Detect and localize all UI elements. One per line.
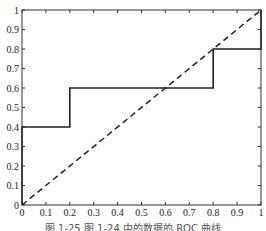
y-tick-label: 0.6 [7, 83, 20, 94]
x-tick-label: 0 [20, 207, 25, 218]
y-tick-label: 0 [14, 200, 19, 211]
y-tick-label: 0.1 [7, 180, 20, 191]
x-tick-label: 0.9 [231, 207, 244, 218]
x-tick-label: 0.3 [87, 207, 100, 218]
x-tick-label: 0.8 [207, 207, 220, 218]
roc-chart: 00.10.20.30.40.50.60.70.80.9100.10.20.30… [0, 0, 266, 231]
x-tick-label: 0.4 [111, 207, 124, 218]
x-tick-label: 0.7 [183, 207, 196, 218]
x-tick-label: 0.2 [64, 207, 77, 218]
axis-ticks: 00.10.20.30.40.50.60.70.80.9100.10.20.30… [7, 5, 264, 219]
x-tick-label: 0.6 [159, 207, 172, 218]
x-tick-label: 0.1 [40, 207, 53, 218]
y-tick-label: 0.7 [7, 63, 20, 74]
x-tick-label: 1 [259, 207, 264, 218]
y-tick-label: 0.5 [7, 102, 20, 113]
figure-caption: 图 1-25 图 1-24 中的数据的 ROC 曲线 [0, 220, 266, 231]
diagonal-line [22, 10, 261, 205]
y-tick-label: 0.8 [7, 44, 20, 55]
y-tick-label: 0.9 [7, 24, 20, 35]
x-tick-label: 0.5 [135, 207, 148, 218]
y-tick-label: 0.3 [7, 141, 20, 152]
y-tick-label: 0.2 [7, 161, 20, 172]
y-tick-label: 0.4 [7, 122, 20, 133]
y-tick-label: 1 [14, 5, 19, 16]
series-lines [22, 10, 261, 205]
